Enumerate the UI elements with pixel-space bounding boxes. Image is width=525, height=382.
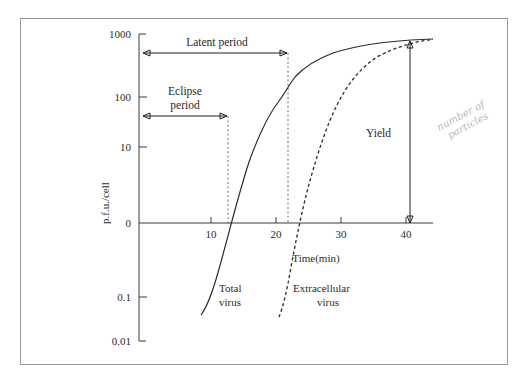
total-virus-label-line1: Total [219, 282, 241, 294]
x-tick-label-30: 30 [336, 228, 348, 240]
total-virus-curve [201, 39, 433, 315]
total-virus-label-line2: virus [219, 296, 241, 308]
x-tick-label-10: 10 [206, 228, 218, 240]
extracellular-virus-label-line1: Extracellular [293, 282, 350, 294]
x-tick-label-20: 20 [271, 228, 283, 240]
latent-period-label: Latent period [186, 36, 248, 49]
y-tick-label-10: 10 [120, 141, 132, 153]
eclipse-period-label-line1: Eclipse [168, 85, 202, 98]
x-tick-label-40: 40 [401, 228, 413, 240]
extracellular-virus-label-line2: virus [317, 296, 339, 308]
y-tick-label-0: 0 [126, 217, 132, 229]
x-axis-title: Time(min) [292, 252, 340, 265]
y-tick-label-0-01: 0.01 [112, 335, 131, 347]
y-tick-label-0-1: 0.1 [117, 291, 131, 303]
yield-label: Yield [366, 127, 391, 139]
eclipse-period-label-line2: period [170, 99, 200, 112]
y-tick-label-100: 100 [115, 91, 132, 103]
one-step-growth-curve-chart: 1000 100 10 0 0.1 0.01 p.f.u./cell 10 20… [21, 19, 507, 364]
figure-frame: 1000 100 10 0 0.1 0.01 p.f.u./cell 10 20… [20, 18, 508, 365]
y-axis-title: p.f.u./cell [99, 182, 111, 224]
handwritten-annotation: number of particles [435, 97, 494, 143]
y-tick-label-1000: 1000 [109, 28, 132, 40]
